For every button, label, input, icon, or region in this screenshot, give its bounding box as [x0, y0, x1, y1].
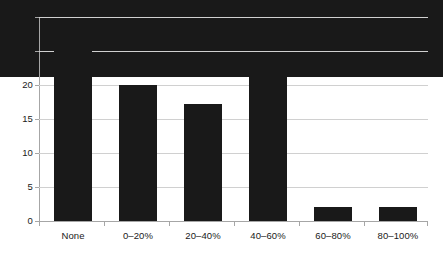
x-axis-labels: None 0–20% 20–40% 40–60% 60–80% 80–100%	[39, 231, 428, 247]
bar-40-60	[249, 73, 287, 221]
y-axis-label-15: 15	[22, 114, 33, 124]
x-axis-ticks	[39, 222, 428, 226]
bar-60-80	[314, 207, 352, 221]
x-axis-tick-0	[39, 222, 40, 226]
x-axis-label-40-60: 40–60%	[250, 231, 285, 241]
x-axis-label-0-20: 0–20%	[123, 231, 153, 241]
x-axis-tick-1	[104, 222, 105, 226]
x-axis-tick-6	[427, 222, 428, 226]
y-axis-label-30: 30	[22, 12, 33, 22]
x-axis-tick-2	[169, 222, 170, 226]
bar-none	[54, 32, 92, 221]
x-axis-label-none: None	[61, 231, 84, 241]
x-axis-label-20-40: 20–40%	[185, 231, 220, 241]
bar-20-40	[184, 104, 222, 221]
x-axis-tick-5	[364, 222, 365, 226]
bar-80-100	[379, 207, 417, 221]
y-axis-label-5: 5	[28, 182, 33, 192]
bar-0-20	[119, 85, 157, 221]
y-axis-label-10: 10	[22, 148, 33, 158]
y-axis-label-0: 0	[28, 216, 33, 226]
x-axis-label-60-80: 60–80%	[315, 231, 350, 241]
x-axis-tick-4	[299, 222, 300, 226]
bar-chart: 30 25 20 15 10 5 0	[0, 0, 443, 77]
y-axis-label-25: 25	[22, 46, 33, 56]
x-axis-label-80-100: 80–100%	[378, 231, 419, 241]
y-axis-label-20: 20	[22, 80, 33, 90]
x-axis-tick-3	[234, 222, 235, 226]
y-axis-labels: 30 25 20 15 10 5 0	[0, 0, 33, 264]
bars-group	[39, 17, 428, 221]
